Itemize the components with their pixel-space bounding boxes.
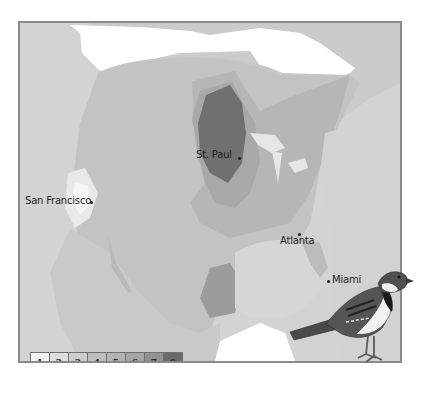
legend-item-5: 5	[107, 353, 126, 363]
legend: 1 2 3 4 5 6 7 8	[30, 352, 183, 363]
sparrow-bird-icon	[286, 258, 416, 368]
city-label-st-paul: St. Paul	[196, 149, 232, 160]
city-dot-st-paul	[238, 157, 241, 160]
legend-item-3: 3	[69, 353, 88, 363]
legend-item-4: 4	[88, 353, 107, 363]
legend-item-1: 1	[31, 353, 50, 363]
legend-item-7: 7	[145, 353, 164, 363]
city-label-san-francisco: San Francisco	[25, 195, 91, 206]
legend-item-6: 6	[126, 353, 145, 363]
legend-item-2: 2	[50, 353, 69, 363]
city-dot-san-francisco	[90, 201, 93, 204]
legend-item-8: 8	[164, 353, 182, 363]
city-label-atlanta: Atlanta	[280, 235, 314, 246]
